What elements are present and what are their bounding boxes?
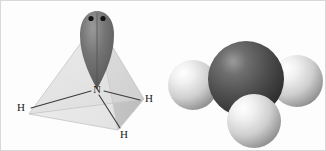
hydrogen-label-left: H <box>17 101 25 113</box>
nitrogen-label: N <box>93 84 101 95</box>
lone-pair-electron-2 <box>100 16 105 21</box>
hydrogen-label-bottom: H <box>120 128 128 140</box>
vsepr-tetrahedron-panel: N H H H <box>1 1 164 151</box>
ball-and-stick-svg <box>164 1 326 151</box>
hydrogen-label-right: H <box>145 92 153 104</box>
ammonia-molecule-figure: N H H H <box>0 0 326 151</box>
ball-and-stick-panel <box>164 1 326 151</box>
vsepr-diagram-svg: N H H H <box>1 1 164 151</box>
lone-pair-electron-1 <box>88 16 93 21</box>
hydrogen-sphere-bottom <box>227 94 281 148</box>
